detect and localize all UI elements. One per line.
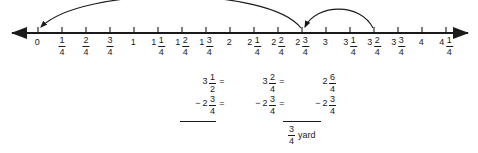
answer-value: 3 4 yard <box>288 125 316 146</box>
equation-subtrahend-row: − 2 3 4 = − 2 3 4 = − 2 3 <box>176 95 336 116</box>
fraction-numerator: 3 <box>106 36 113 46</box>
minuend-regrouped: 2 6 4 <box>288 73 336 94</box>
fraction-denominator: 4 <box>446 46 453 57</box>
fraction-numerator: 6 <box>329 73 336 83</box>
tick-fraction: 3 4 <box>106 36 113 57</box>
mixed-fraction: 3 4 <box>209 95 216 116</box>
subtraction-rule-left <box>180 121 216 122</box>
fraction-denominator: 4 <box>206 46 213 57</box>
fraction-numerator: 1 <box>350 36 357 46</box>
equation-block: 3 1 2 = 3 2 4 = 2 6 4 <box>176 70 336 153</box>
fraction-numerator: 2 <box>82 36 89 46</box>
tick-label-7: 1 3 4 <box>199 36 213 57</box>
tick-fraction: 1 4 <box>254 36 261 57</box>
fraction-numerator: 3 <box>209 95 216 105</box>
fraction-denominator: 4 <box>106 46 113 57</box>
fraction-denominator: 4 <box>269 83 276 94</box>
fraction-numerator: 1 <box>158 36 165 46</box>
tick-label-3: 3 4 <box>106 36 113 57</box>
fraction-denominator: 4 <box>374 46 381 57</box>
tick-fraction: 1 4 <box>58 36 65 57</box>
mixed-fraction: 2 4 <box>269 73 276 94</box>
fraction-denominator: 2 <box>209 83 216 94</box>
fraction-numerator: 3 <box>288 125 295 135</box>
subtrahend-converted: − 2 3 4 <box>228 95 276 116</box>
fraction-denominator: 4 <box>58 46 65 57</box>
fraction-numerator: 3 <box>206 36 213 46</box>
tick-label-13: 3 1 4 <box>343 36 357 57</box>
fraction-denominator: 4 <box>350 46 357 57</box>
tick-whole: 2 <box>227 36 234 47</box>
tick-fraction: 1 4 <box>350 36 357 57</box>
equals-sign-1: = <box>216 73 228 86</box>
tick-label-9: 2 1 4 <box>247 36 261 57</box>
minus-sign: − <box>195 95 202 108</box>
mixed-fraction: 6 4 <box>329 73 336 94</box>
minus-sign: − <box>315 95 322 108</box>
tick-label-6: 1 2 4 <box>175 36 189 57</box>
tick-fraction: 1 4 <box>446 36 453 57</box>
fraction-denominator: 4 <box>329 83 336 94</box>
minus-sign: − <box>255 95 262 108</box>
fraction-denominator: 4 <box>302 46 309 57</box>
subtraction-rule-right <box>283 121 321 122</box>
tick-fraction: 2 4 <box>82 36 89 57</box>
fraction-denominator: 4 <box>288 135 295 146</box>
long-jump-arc <box>41 0 301 28</box>
fraction-numerator: 3 <box>329 95 336 105</box>
subtrahend-regrouped: − 2 3 4 <box>288 95 336 116</box>
answer-unit: yard <box>295 125 316 140</box>
fraction-numerator: 1 <box>446 36 453 46</box>
fraction-numerator: 2 <box>278 36 285 46</box>
fraction-denominator: 4 <box>158 46 165 57</box>
mixed-fraction: 3 4 <box>269 95 276 116</box>
fraction-numerator: 1 <box>209 73 216 83</box>
tick-fraction: 3 4 <box>206 36 213 57</box>
tick-label-11: 2 3 4 <box>295 36 309 57</box>
tick-whole: 1 <box>131 36 138 47</box>
tick-label-1: 1 4 <box>58 36 65 57</box>
fraction-numerator: 1 <box>254 36 261 46</box>
tick-label-10: 2 2 4 <box>271 36 285 57</box>
tick-fraction: 3 4 <box>398 36 405 57</box>
tick-fraction: 2 4 <box>374 36 381 57</box>
tick-fraction: 2 4 <box>278 36 285 57</box>
tick-label-4: 1 <box>131 36 138 47</box>
equals-sign-4: = <box>276 95 288 108</box>
tick-whole: 3 <box>323 36 330 47</box>
tick-label-12: 3 <box>323 36 330 47</box>
tick-label-16: 4 <box>419 36 426 47</box>
fraction-numerator: 3 <box>269 95 276 105</box>
fraction-numerator: 3 <box>302 36 309 46</box>
equation-minuend-row: 3 1 2 = 3 2 4 = 2 6 4 <box>176 73 336 94</box>
fraction-numerator: 2 <box>374 36 381 46</box>
math-figure: 0 1 4 2 4 3 4 1 1 1 <box>0 0 478 153</box>
fraction-denominator: 4 <box>209 105 216 116</box>
fraction-denominator: 4 <box>269 105 276 116</box>
fraction-numerator: 3 <box>398 36 405 46</box>
tick-label-5: 1 1 4 <box>151 36 165 57</box>
short-jump-arc <box>305 9 373 28</box>
fraction-numerator: 1 <box>58 36 65 46</box>
minuend-converted: 3 2 4 <box>228 73 276 94</box>
tick-fraction: 1 4 <box>158 36 165 57</box>
tick-fraction: 3 4 <box>302 36 309 57</box>
fraction-denominator: 4 <box>329 105 336 116</box>
fraction-denominator: 4 <box>82 46 89 57</box>
fraction-numerator: 2 <box>182 36 189 46</box>
tick-label-8: 2 <box>227 36 234 47</box>
subtrahend-original: − 2 3 4 <box>176 95 216 116</box>
fraction-numerator: 2 <box>269 73 276 83</box>
tick-fraction: 2 4 <box>182 36 189 57</box>
mixed-fraction: 1 2 <box>209 73 216 94</box>
fraction-denominator: 4 <box>254 46 261 57</box>
minuend-original: 3 1 2 <box>176 73 216 94</box>
fraction-denominator: 4 <box>278 46 285 57</box>
tick-whole: 4 <box>419 36 426 47</box>
tick-label-14: 3 2 4 <box>367 36 381 57</box>
fraction-denominator: 4 <box>398 46 405 57</box>
equals-sign-3: = <box>216 95 228 108</box>
tick-whole: 0 <box>35 36 42 47</box>
tick-label-0: 0 <box>35 36 42 47</box>
mixed-fraction: 3 4 <box>329 95 336 116</box>
